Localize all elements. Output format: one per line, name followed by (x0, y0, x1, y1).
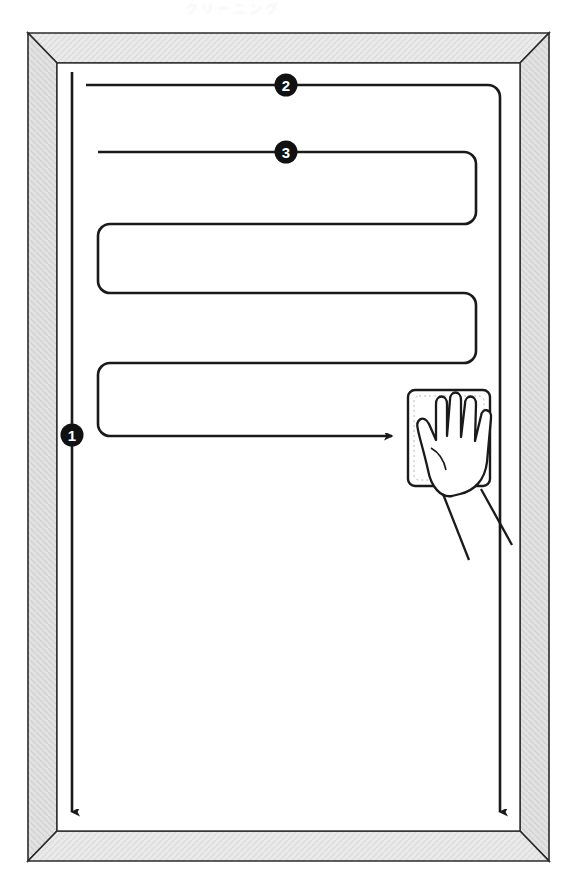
marker-3-label: 3 (282, 144, 290, 161)
marker-2: 2 (275, 74, 298, 97)
marker-1-label: 1 (68, 427, 76, 444)
cut-off-title-text: クリーニング (185, 0, 405, 14)
frame-rail-bottom (28, 831, 549, 861)
marker-1: 1 (61, 424, 84, 447)
frame-rail-top (28, 33, 549, 63)
frame-rail-left (28, 33, 57, 861)
diagram-canvas: クリーニング (0, 0, 577, 884)
cleaning-path-illustration: 1 2 3 (0, 0, 577, 884)
marker-2-label: 2 (282, 77, 290, 94)
marker-3: 3 (275, 141, 298, 164)
frame-rail-right (520, 33, 549, 861)
